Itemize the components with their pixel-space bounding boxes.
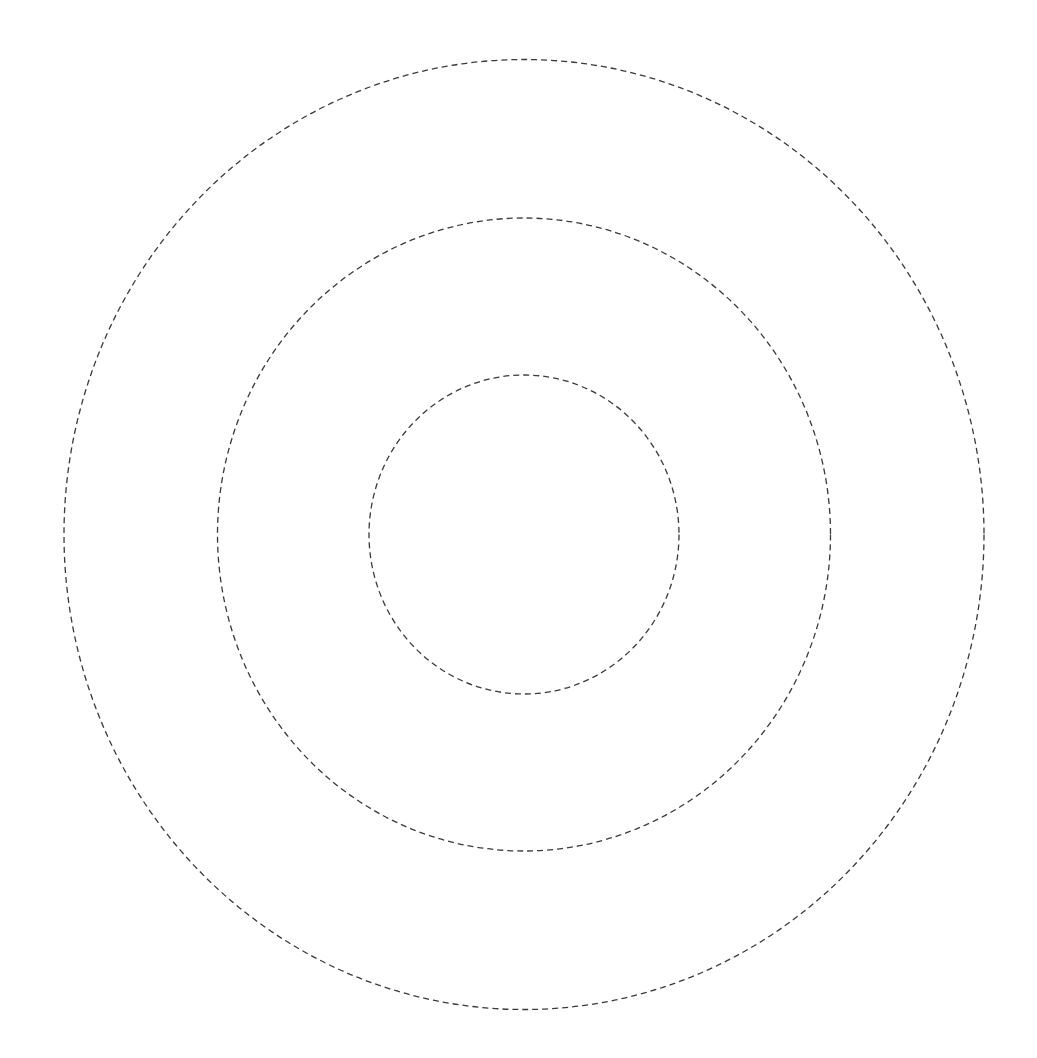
diagram-canvas (0, 0, 1037, 1058)
concentric-rings-diagram (0, 0, 1037, 1058)
outer-ring (64, 60, 984, 1010)
middle-ring (218, 218, 831, 851)
inner-ring (369, 375, 679, 694)
